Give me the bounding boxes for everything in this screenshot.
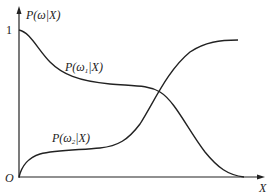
origin-label-text: O <box>5 171 14 185</box>
y-axis-arrow-icon <box>17 6 22 14</box>
series-label-main: P(ω <box>65 60 85 74</box>
series-label-main: P(ω <box>52 131 72 145</box>
origin-label: O <box>5 172 14 184</box>
x-axis <box>19 175 265 180</box>
x-axis-label-text: X <box>259 181 266 195</box>
y-tick-label: 1 <box>6 23 12 37</box>
y-axis <box>17 6 22 178</box>
series-label-tail: |X) <box>88 60 103 74</box>
series-label-tail: |X) <box>75 131 90 145</box>
x-axis-label: X <box>259 182 266 194</box>
curve-omega2 <box>19 40 238 177</box>
y-tick-1: 1 <box>6 24 12 36</box>
series-label-omega1: P(ω1|X) <box>65 61 103 75</box>
chart-canvas <box>0 0 276 195</box>
series-label-omega2: P(ω2|X) <box>52 132 90 146</box>
x-axis-arrow-icon <box>257 175 265 180</box>
y-axis-label-text: P(ω|X) <box>26 8 60 22</box>
curve-omega1 <box>19 30 244 177</box>
y-axis-label: P(ω|X) <box>26 9 60 21</box>
